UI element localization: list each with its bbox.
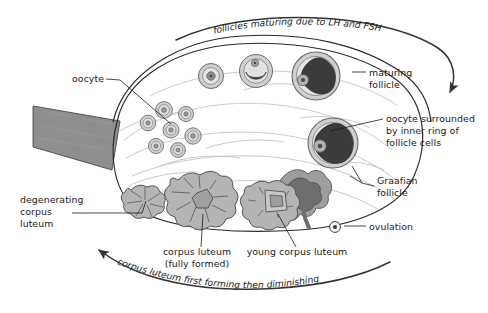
label-oocyte: oocyte bbox=[72, 73, 104, 84]
primordial-follicle-cluster bbox=[140, 102, 201, 158]
degenerating-corpus-luteum bbox=[121, 185, 165, 218]
maturing-follicle-stage-1 bbox=[199, 64, 224, 89]
ovary-diagram: follicles maturing due to LH and FSH cor… bbox=[0, 0, 488, 313]
label-maturing-follicle-line-1: maturing bbox=[369, 67, 412, 78]
corpus-luteum-fully-formed bbox=[164, 171, 238, 230]
label-ovulation-line-1: ovulation bbox=[369, 221, 413, 232]
label-oocyte-surrounded-line-1: oocyte surrounded bbox=[386, 113, 475, 124]
primordial-follicle bbox=[171, 143, 186, 158]
primordial-follicle bbox=[156, 102, 173, 119]
label-degenerating-line-2: corpus bbox=[20, 206, 52, 217]
primordial-follicle bbox=[185, 128, 201, 144]
label-graafian-follicle-line-1: Graafian bbox=[377, 175, 418, 186]
label-degenerating-line-3: luteum bbox=[20, 218, 53, 229]
label-graafian-follicle: Graafian follicle bbox=[377, 175, 418, 198]
maturing-follicle-stage-3 bbox=[292, 52, 340, 100]
maturing-follicle-stage-2 bbox=[240, 55, 273, 88]
label-maturing-follicle: maturing follicle bbox=[369, 67, 412, 90]
ovulation-point bbox=[330, 222, 341, 233]
ovarian-ligament bbox=[33, 106, 120, 170]
young-corpus-luteum bbox=[240, 180, 300, 230]
graafian-follicle bbox=[308, 118, 358, 168]
label-oocyte-surrounded: oocyte surrounded by inner ring of folli… bbox=[386, 113, 475, 148]
label-corpus-luteum-fully-formed: corpus luteum (fully formed) bbox=[163, 246, 231, 269]
primordial-follicle bbox=[148, 138, 163, 153]
label-graafian-follicle-line-2: follicle bbox=[377, 187, 408, 198]
primordial-follicle bbox=[140, 115, 156, 131]
diagram-canvas: follicles maturing due to LH and FSH cor… bbox=[0, 0, 488, 313]
top-arc-caption: follicles maturing due to LH and FSH bbox=[212, 15, 382, 35]
label-oocyte-line-1: oocyte bbox=[72, 73, 104, 84]
label-maturing-follicle-line-2: follicle bbox=[369, 79, 400, 90]
label-young-cl-line-1: young corpus luteum bbox=[247, 246, 348, 257]
label-young-corpus-luteum: young corpus luteum bbox=[247, 246, 348, 257]
label-cl-formed-line-1: corpus luteum bbox=[163, 246, 231, 257]
label-oocyte-surrounded-line-3: follicle cells bbox=[386, 137, 441, 148]
label-degenerating-line-1: degenerating bbox=[20, 194, 84, 205]
label-degenerating-corpus-luteum: degenerating corpus luteum bbox=[20, 194, 84, 229]
label-oocyte-surrounded-line-2: by inner ring of bbox=[386, 125, 459, 136]
label-cl-formed-line-2: (fully formed) bbox=[165, 258, 230, 269]
primordial-follicle bbox=[178, 106, 193, 121]
primordial-follicle bbox=[163, 122, 179, 138]
label-ovulation: ovulation bbox=[369, 221, 413, 232]
